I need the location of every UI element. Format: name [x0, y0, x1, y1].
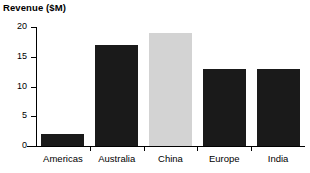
y-tick-label: 20 — [5, 22, 27, 31]
y-tick-mark — [31, 57, 36, 58]
y-axis-line — [36, 27, 37, 147]
bar-india[interactable] — [257, 69, 300, 146]
y-tick-mark — [31, 116, 36, 117]
bar-china[interactable] — [149, 33, 192, 146]
x-tick-mark — [90, 147, 91, 151]
y-tick-label: 15 — [5, 52, 27, 61]
category-label-americas: Americas — [36, 154, 90, 164]
bar-americas[interactable] — [41, 134, 84, 146]
bar-australia[interactable] — [95, 45, 138, 146]
category-label-india: India — [251, 154, 305, 164]
bar-europe[interactable] — [203, 69, 246, 146]
x-tick-mark — [197, 147, 198, 151]
y-tick-mark — [31, 27, 36, 28]
y-tick-label: 5 — [5, 111, 27, 120]
y-tick-label: 0 — [5, 141, 27, 150]
x-tick-mark — [144, 147, 145, 151]
chart-title: Revenue ($M) — [3, 2, 66, 13]
x-tick-mark — [251, 147, 252, 151]
x-axis-line — [27, 146, 305, 147]
category-label-australia: Australia — [90, 154, 144, 164]
category-label-europe: Europe — [197, 154, 251, 164]
y-tick-mark — [31, 87, 36, 88]
y-tick-label: 10 — [5, 82, 27, 91]
bar-chart-figure: Revenue ($M) 05101520 AmericasAustraliaC… — [0, 0, 310, 173]
y-tick-mark — [31, 146, 36, 147]
category-label-china: China — [144, 154, 198, 164]
